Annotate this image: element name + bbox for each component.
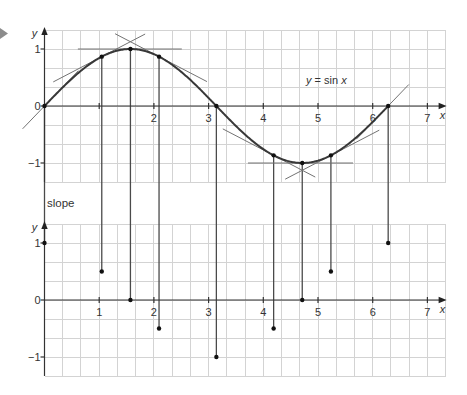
grid-layer bbox=[45, 30, 446, 376]
plot-area: yx23456710−1yx123456710−1 bbox=[23, 27, 447, 376]
play-arrow-icon bbox=[0, 28, 8, 39]
x-tick-label: 6 bbox=[370, 112, 376, 124]
lower-data-point bbox=[100, 269, 104, 273]
x-tick-label: 7 bbox=[424, 112, 430, 124]
lower-data-point bbox=[300, 298, 304, 302]
x-tick-label: 2 bbox=[151, 112, 157, 124]
lower-data-point bbox=[42, 241, 46, 245]
x-tick-label: 3 bbox=[206, 112, 212, 124]
y-axis-arrow-icon bbox=[41, 27, 47, 35]
slope-panel-title: slope bbox=[47, 197, 75, 209]
function-label: y = sin x bbox=[305, 74, 347, 86]
lower-y-axis-label: y bbox=[31, 221, 39, 233]
upper-data-point bbox=[214, 104, 218, 108]
y-tick-label: 1 bbox=[34, 237, 40, 249]
x-tick-label: 5 bbox=[315, 112, 321, 124]
upper-y-axis-label: y bbox=[31, 27, 39, 39]
lower-data-point bbox=[329, 269, 333, 273]
sine-slope-figure: yx23456710−1yx123456710−1 y = sin x slop… bbox=[0, 0, 467, 395]
y-tick-label: 0 bbox=[34, 100, 40, 112]
x-tick-label: 6 bbox=[370, 306, 376, 318]
label-layer: yx23456710−1yx123456710−1 bbox=[28, 27, 446, 363]
x-tick-label: 1 bbox=[96, 306, 102, 318]
x-tick-label: 2 bbox=[151, 306, 157, 318]
lower-x-axis-label: x bbox=[439, 303, 446, 315]
x-tick-label: 7 bbox=[424, 306, 430, 318]
upper-data-point bbox=[300, 161, 304, 165]
y-tick-label: 1 bbox=[34, 43, 40, 55]
x-tick-label: 4 bbox=[260, 112, 266, 124]
lower-data-point bbox=[128, 298, 132, 302]
lower-data-point bbox=[271, 326, 275, 330]
lower-data-point bbox=[157, 326, 161, 330]
upper-x-axis-label: x bbox=[439, 109, 446, 121]
y-tick-label: −1 bbox=[28, 351, 41, 363]
upper-data-point bbox=[157, 54, 161, 58]
function-label-x: x bbox=[340, 74, 347, 86]
x-tick-label: 4 bbox=[260, 306, 266, 318]
upper-data-point bbox=[386, 104, 390, 108]
y-tick-label: 0 bbox=[34, 294, 40, 306]
upper-data-point bbox=[271, 153, 275, 157]
upper-data-point bbox=[100, 54, 104, 58]
y-tick-label: −1 bbox=[28, 157, 41, 169]
x-tick-label: 3 bbox=[206, 306, 212, 318]
x-tick-label: 5 bbox=[315, 306, 321, 318]
upper-data-point bbox=[128, 47, 132, 51]
lower-data-point bbox=[214, 355, 218, 359]
upper-data-point bbox=[42, 104, 46, 108]
function-label-middle: = sin bbox=[312, 74, 342, 86]
y-axis-arrow-icon bbox=[41, 221, 47, 229]
upper-data-point bbox=[329, 153, 333, 157]
lower-data-point bbox=[386, 241, 390, 245]
